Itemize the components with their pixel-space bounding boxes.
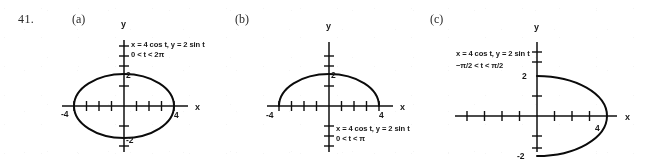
y-axis-label: y	[534, 22, 539, 32]
y-tick-label-two: 2	[331, 70, 336, 80]
panel-c: (c) y x	[425, 0, 645, 166]
panel-a-label: (a)	[72, 12, 85, 27]
x-tick-label-four: 4	[595, 123, 600, 133]
equation-line-1: x = 4 cos t, y = 2 sin t	[131, 40, 205, 49]
y-tick-label-two: 2	[126, 70, 131, 80]
x-tick-label-four: 4	[174, 110, 179, 120]
y-tick-label-two: 2	[522, 71, 527, 81]
x-axis-label: x	[625, 112, 630, 122]
panel-b-label: (b)	[235, 12, 249, 27]
y-axis-label: y	[121, 19, 126, 29]
panel-c-label: (c)	[430, 12, 443, 27]
panel-c-plot: y x 4 2 -2 x = 4 cos t, y = 2 sin t −π/2…	[425, 0, 647, 166]
panel-a-plot: y x -4 4 2 -2 x = 4 cos t, y = 2 sin t 0…	[0, 0, 220, 166]
x-tick-label-four: 4	[379, 110, 384, 120]
x-axis-label: x	[400, 102, 405, 112]
y-tick-label-negative-two: -2	[517, 151, 525, 161]
y-axis-label: y	[326, 21, 331, 31]
parameter-range: 0 < t < π	[336, 134, 365, 143]
x-tick-label-negative-four: -4	[61, 109, 69, 119]
y-tick-label-negative-two: -2	[126, 135, 134, 145]
parameter-range: 0 < t < 2π	[131, 50, 164, 59]
x-axis-label: x	[195, 102, 200, 112]
x-tick-label-negative-four: -4	[266, 110, 274, 120]
parameter-range: −π/2 < t < π/2	[456, 61, 503, 70]
panel-b: (b)	[205, 0, 425, 166]
equation-line-1: x = 4 cos t, y = 2 sin t	[336, 124, 410, 133]
equation-line-1: x = 4 cos t, y = 2 sin t	[456, 49, 530, 58]
panel-a: (a)	[0, 0, 220, 166]
figure-container: 41. (a)	[0, 0, 647, 166]
